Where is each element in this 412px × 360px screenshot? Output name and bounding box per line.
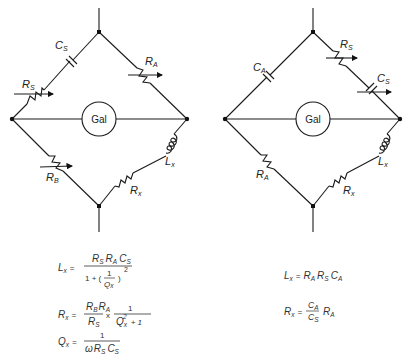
node-top [311,30,315,34]
svg-text:2: 2 [124,266,128,273]
node-top [97,30,101,34]
svg-text:Qx: Qx [104,280,114,289]
svg-text:1: 1 [107,269,112,278]
label-lx: Lx [165,155,175,168]
svg-text:Qx=: Qx= [58,336,77,348]
svg-text:RS: RS [88,316,100,328]
right-upper-left-arm [225,32,313,119]
svg-text:1: 1 [128,304,133,313]
label-lx: Lx [378,155,388,168]
svg-text:CS: CS [308,312,319,323]
bridge-diagram: Gal CS RS RA RB Lx Rx [0,0,412,360]
svg-text:1 + (: 1 + ( [85,274,102,283]
label-rs: RS [22,78,35,91]
equation-lx: Lx=RARSCA [284,270,342,282]
svg-text:RA: RA [323,306,335,318]
variable-arrow-rb-icon [40,166,72,167]
svg-text:Qx2+ 1: Qx2+ 1 [116,313,142,328]
equation-qx: Qx= 1 ωRSCS [58,331,120,355]
label-rb: RB [46,171,59,184]
svg-text:Rx=: Rx= [58,309,76,321]
equation-lx: Lx= RSRACS 1 + ( 1 Qx ) 2 [58,253,132,289]
svg-text:RSRACS: RSRACS [92,253,131,265]
label-rx: Rx [343,184,355,197]
equation-rx: Rx= RBRA RS x 1 Qx2+ 1 [58,301,151,328]
left-equations: Lx= RSRACS 1 + ( 1 Qx ) 2 Rx= RBRA RS x … [58,253,151,355]
label-rs: RS [340,38,353,51]
right-bridge: Gal CA RS CS RA Lx Rx [223,8,402,232]
label-rx: Rx [130,184,142,197]
node-right [398,117,402,121]
label-ra: RA [145,55,158,68]
galvanometer-label: Gal [91,114,107,125]
label-cs: CS [377,72,390,85]
resistor-rb-icon [49,156,63,171]
label-ca: CA [253,61,266,74]
resistor-ra-icon [261,155,274,169]
left-lower-left-arm [12,119,99,206]
node-left [223,117,227,121]
right-equations: Lx=RARSCA Rx= CA CS RA [284,270,342,323]
svg-text:Lx=RARSCA: Lx=RARSCA [284,270,342,282]
node-right [185,117,189,121]
inductor-lx-icon [379,134,390,153]
inductor-lx-icon [166,134,177,153]
node-left [10,117,14,121]
svg-text:1: 1 [100,331,105,340]
label-cs: CS [55,39,68,52]
label-ra: RA [256,168,269,181]
svg-text:Rx=: Rx= [284,306,302,318]
right-lower-left-arm [225,119,313,206]
svg-text:): ) [118,274,121,283]
right-upper-right-arm [313,32,400,119]
svg-text:x: x [106,311,110,320]
node-bottom [97,204,101,208]
equation-rx: Rx= CA CS RA [284,300,335,323]
svg-text:Lx=: Lx= [58,262,75,274]
svg-text:ωRSCS: ωRSCS [85,343,120,355]
left-bridge: Gal CS RS RA RB Lx Rx [10,8,189,232]
galvanometer-label: Gal [305,114,321,125]
svg-text:CA: CA [308,300,318,311]
node-bottom [311,204,315,208]
